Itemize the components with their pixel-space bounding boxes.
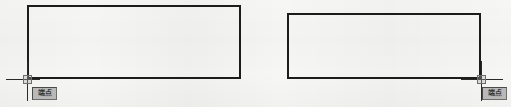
rectangle-left[interactable] (27, 5, 241, 79)
crosshair-horizontal-line (461, 79, 503, 80)
cad-drawing-canvas[interactable]: 端点 端点 (0, 0, 511, 107)
osnap-tooltip-right: 端点 (482, 87, 507, 100)
osnap-tooltip-left: 端点 (32, 87, 57, 100)
crosshair-horizontal-line (6, 79, 40, 80)
rectangle-right[interactable] (287, 13, 481, 79)
